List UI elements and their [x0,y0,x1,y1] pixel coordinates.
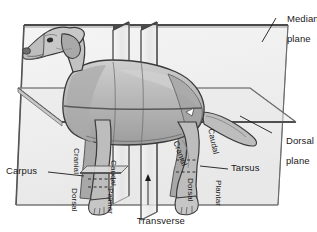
figure-illustration [0,0,317,232]
dorsal-plane-label-line1: Dorsal [286,135,314,146]
tarsus-label: Tarsus [231,163,260,173]
median-plane-label-line1: Median [287,13,317,24]
transverse-planes-label: Transverse planes [126,206,185,232]
carpus-label: Carpus [6,166,37,176]
forelimb-caudal-label: Caudal [109,160,117,186]
forelimb-palmar-label: Palmar [106,188,114,214]
median-plane-label: Median plane [276,4,317,54]
median-plane-label-line2: plane [287,33,311,44]
forelimb-dorsal-label: Dorsal [70,188,78,212]
dorsal-plane-label-line2: plane [286,155,310,166]
hindlimb-dorsal-label: Dorsal [186,178,194,202]
transverse-planes-label-line1: Transverse [137,215,185,226]
forelimb-cranial-label: Cranial [72,148,80,174]
dorsal-plane-label: Dorsal plane [275,126,314,176]
anatomical-planes-figure: Median plane Dorsal plane Transverse pla… [0,0,317,232]
hindlimb-plantar-label: Plantar [214,180,222,206]
